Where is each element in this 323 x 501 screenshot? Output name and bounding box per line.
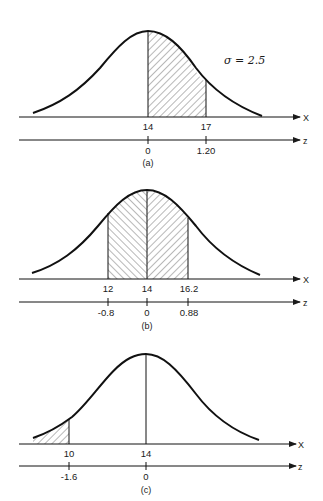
panel-c: X 10 14 z -1.6 0 (c) <box>19 354 304 495</box>
x-tick-label: 16.2 <box>180 283 199 294</box>
x-tick-label: 14 <box>142 283 153 294</box>
shaded-region-b-right <box>147 190 188 279</box>
x-axis-label: X <box>298 440 304 450</box>
x-tick-label: 14 <box>143 121 154 132</box>
z-tick-label: 0 <box>144 307 149 318</box>
z-tick-label: 1.20 <box>197 145 216 156</box>
z-tick-label: 0 <box>145 145 150 156</box>
x-tick-label: 14 <box>141 448 152 459</box>
z-tick-label: 0 <box>143 471 148 482</box>
panel-a: X 14 17 z 0 1.20 (a) σ = 2.5 <box>19 31 309 168</box>
z-tick-label: -1.6 <box>61 471 77 482</box>
panel-caption-c: (c) <box>141 485 152 495</box>
z-axis-label: z <box>303 298 308 308</box>
panel-b: X 12 14 16.2 z -0.8 0 0.88 (b) <box>19 190 309 331</box>
x-tick-label: 10 <box>64 448 75 459</box>
z-axis-label: z <box>303 136 308 146</box>
panel-caption-b: (b) <box>142 321 153 331</box>
shaded-region-b-left <box>108 190 147 279</box>
x-tick-label: 12 <box>103 283 114 294</box>
normal-distribution-figure: X 14 17 z 0 1.20 (a) σ = 2.5 X 12 14 16.… <box>0 0 323 501</box>
panel-caption-a: (a) <box>143 158 154 168</box>
x-axis-label: X <box>303 275 309 285</box>
x-tick-label: 17 <box>201 121 212 132</box>
z-axis-label: z <box>298 462 303 472</box>
sigma-annotation: σ = 2.5 <box>224 54 265 67</box>
x-axis-label: X <box>303 113 309 123</box>
z-tick-label: 0.88 <box>180 307 199 318</box>
z-tick-label: -0.8 <box>98 307 114 318</box>
